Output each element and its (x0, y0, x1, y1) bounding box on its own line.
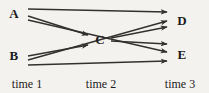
node-B: B (10, 49, 19, 62)
node-C-label: C (95, 32, 105, 47)
edge-b-c (28, 45, 88, 56)
node-B-label: B (10, 48, 19, 63)
axis-label-time-2: time 2 (86, 78, 116, 90)
node-E: E (178, 48, 187, 61)
node-A-label: A (9, 6, 19, 21)
edge-c-e (111, 41, 167, 44)
axis-label-time-1-text: time 1 (12, 77, 42, 91)
axis-label-time-1: time 1 (12, 78, 42, 90)
node-D-label: D (177, 13, 187, 28)
node-A: A (9, 7, 19, 20)
edge-b-e (28, 61, 167, 65)
axis-label-time-2-text: time 2 (86, 77, 116, 91)
node-E-label: E (178, 47, 187, 62)
edge-a-d (28, 9, 167, 12)
node-C: C (95, 33, 105, 46)
node-D: D (177, 14, 187, 27)
axis-label-time-3-text: time 3 (165, 77, 195, 91)
axis-label-time-3: time 3 (165, 78, 195, 90)
diagram-canvas: A B C D E time 1 time 2 time 3 (0, 0, 209, 93)
